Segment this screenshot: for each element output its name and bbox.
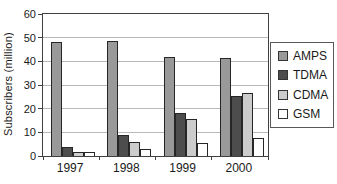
- legend-swatch-amps: [278, 51, 288, 61]
- gridline-50: [43, 37, 268, 38]
- x-tick-mark-0: [43, 156, 44, 160]
- bar-tdma-1998: [118, 135, 129, 156]
- bar-gsm-1999: [197, 143, 208, 156]
- legend-swatch-cdma: [278, 90, 288, 100]
- y-tick-label-20: 20: [14, 103, 36, 115]
- x-axis-label-2000: 2000: [219, 161, 259, 175]
- legend-label-cdma: CDMA: [293, 88, 328, 102]
- legend-label-gsm: GSM: [293, 107, 320, 121]
- y-tick-mark-50: [38, 37, 42, 38]
- bar-amps-1999: [164, 57, 175, 156]
- y-tick-mark-60: [38, 14, 42, 15]
- x-tick-mark-3: [211, 156, 212, 160]
- x-axis-label-1997: 1997: [50, 161, 90, 175]
- legend-swatch-gsm: [278, 109, 288, 119]
- y-tick-label-40: 40: [14, 55, 36, 67]
- legend-swatch-tdma: [278, 70, 288, 80]
- y-tick-label-30: 30: [14, 79, 36, 91]
- gridline-30: [43, 85, 268, 86]
- bar-tdma-1997: [62, 147, 73, 156]
- legend-item-tdma: TDMA: [278, 68, 331, 82]
- x-tick-mark-1: [99, 156, 100, 160]
- x-axis-label-1998: 1998: [106, 161, 146, 175]
- legend-label-amps: AMPS: [293, 49, 327, 63]
- bar-tdma-1999: [175, 113, 186, 156]
- bar-gsm-1997: [84, 152, 95, 156]
- y-tick-label-0: 0: [14, 150, 36, 162]
- y-tick-mark-10: [38, 132, 42, 133]
- bar-amps-1998: [107, 41, 118, 156]
- bar-cdma-1998: [129, 142, 140, 156]
- y-tick-mark-20: [38, 108, 42, 109]
- gridline-40: [43, 61, 268, 62]
- x-tick-mark-2: [155, 156, 156, 160]
- legend-item-cdma: CDMA: [278, 88, 331, 102]
- legend: AMPSTDMACDMAGSM: [270, 42, 334, 128]
- bar-amps-2000: [220, 58, 231, 156]
- x-tick-mark-4: [268, 156, 269, 160]
- plot-area: [42, 13, 269, 157]
- legend-label-tdma: TDMA: [293, 68, 327, 82]
- y-tick-label-60: 60: [14, 8, 36, 20]
- bar-tdma-2000: [231, 96, 242, 156]
- chart: Subscribers (million) AMPSTDMACDMAGSM 01…: [0, 0, 337, 184]
- bar-gsm-1998: [140, 149, 151, 156]
- y-tick-mark-40: [38, 61, 42, 62]
- bar-amps-1997: [51, 42, 62, 156]
- legend-item-amps: AMPS: [278, 49, 331, 63]
- x-axis-label-1999: 1999: [163, 161, 203, 175]
- y-tick-mark-30: [38, 85, 42, 86]
- bar-cdma-1999: [186, 119, 197, 156]
- bar-cdma-2000: [242, 93, 253, 156]
- y-tick-label-50: 50: [14, 32, 36, 44]
- y-tick-label-10: 10: [14, 126, 36, 138]
- legend-item-gsm: GSM: [278, 107, 331, 121]
- bar-cdma-1997: [73, 152, 84, 156]
- bar-gsm-2000: [253, 138, 264, 156]
- y-tick-mark-0: [38, 156, 42, 157]
